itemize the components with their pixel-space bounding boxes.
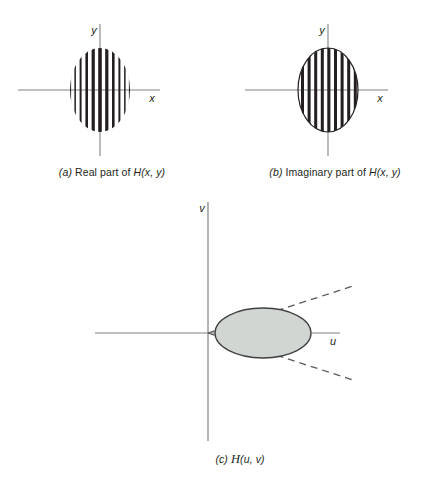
y-axis-label: y <box>90 24 98 36</box>
y-axis-label: y <box>318 24 326 36</box>
caption-c-func: H <box>231 452 240 466</box>
response-ellipse <box>215 308 311 358</box>
x-axis-label: x <box>148 92 155 104</box>
figure-root: y x (a) Real part of H(x, y) <box>0 0 447 484</box>
caption-a-index: (a) <box>59 166 72 178</box>
caption-c-index: (c) <box>215 453 228 465</box>
caption-panel-b: (b) Imaginary part of H(x, y) <box>223 166 447 178</box>
panel-real-part: y x <box>0 6 224 161</box>
v-axis-label: v <box>199 202 206 214</box>
panel-b-graphic: y x <box>223 6 447 161</box>
caption-b-index: (b) <box>269 166 282 178</box>
caption-panel-a: (a) Real part of H(x, y) <box>0 166 224 178</box>
uniform-stripe-group <box>301 48 357 132</box>
caption-c-args: (u, v) <box>240 453 265 465</box>
caption-a-text: Real part of <box>72 166 134 178</box>
panel-c-graphic: v u <box>95 196 385 446</box>
caption-b-func: H <box>369 166 377 178</box>
panel-imaginary-part: y x <box>223 6 447 161</box>
caption-b-text: Imaginary part of <box>282 166 369 178</box>
panel-a-graphic: y x <box>0 6 224 161</box>
u-axis-label: u <box>330 335 336 347</box>
caption-b-args: (x, y) <box>377 166 401 178</box>
x-axis-label: x <box>376 92 383 104</box>
caption-a-args: (x, y) <box>141 166 165 178</box>
panel-frequency-response: v u <box>95 196 385 446</box>
caption-panel-c: (c) H(u, v) <box>95 452 385 467</box>
